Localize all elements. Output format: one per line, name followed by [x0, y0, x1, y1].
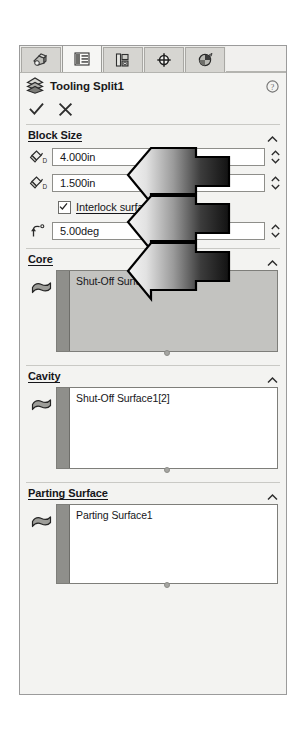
cavity-selection-item[interactable]: Shut-Off Surface1[2] — [70, 388, 277, 468]
field-row-draft-angle: 5.00deg — [20, 218, 286, 244]
tab-display-manager[interactable] — [185, 47, 225, 72]
section-core: Core Shut-Off Surface1[1] — [20, 248, 286, 352]
svg-text:D: D — [43, 183, 48, 190]
chevron-up-icon[interactable] — [267, 130, 278, 139]
field-row-block-depth-core: D 4.000in — [20, 144, 286, 170]
selection-row-core: Shut-Off Surface1[1] — [20, 268, 286, 352]
depth-direction-1-icon: D — [26, 148, 52, 167]
interlock-surface-checkbox[interactable] — [58, 201, 71, 214]
core-selection-item[interactable]: Shut-Off Surface1[1] — [70, 271, 277, 351]
selection-gutter — [57, 271, 70, 351]
block-depth-cavity-spinner[interactable] — [270, 175, 281, 191]
chevron-up-icon[interactable] — [267, 371, 278, 380]
tab-property-manager[interactable] — [62, 45, 102, 72]
depth-direction-2-icon: D — [26, 174, 52, 193]
tab-dimxpert-manager[interactable] — [144, 47, 184, 72]
draft-angle-input[interactable]: 5.00deg — [52, 222, 265, 240]
interlock-surface-label: Interlock surface — [76, 201, 155, 213]
section-header-block-size[interactable]: Block Size — [20, 125, 286, 144]
parting-surface-selection-box[interactable]: Parting Surface1 — [56, 504, 278, 584]
section-header-parting-surface[interactable]: Parting Surface — [20, 483, 286, 502]
resize-handle[interactable] — [164, 350, 170, 356]
configuration-icon — [114, 52, 132, 68]
section-title-cavity: Cavity — [28, 370, 60, 382]
property-list-icon — [73, 51, 91, 67]
display-sphere-icon — [196, 52, 214, 68]
selection-row-parting-surface: Parting Surface1 — [20, 502, 286, 584]
page-title: Tooling Split1 — [50, 80, 266, 92]
section-title-core: Core — [28, 253, 53, 265]
property-manager-action-row — [20, 98, 286, 121]
manager-tab-strip — [20, 46, 286, 73]
section-cavity: Cavity Shut-Off Surface1[2] — [20, 365, 286, 469]
help-icon[interactable]: ? — [266, 79, 279, 92]
section-title-parting-surface: Parting Surface — [28, 487, 108, 499]
core-selection-box[interactable]: Shut-Off Surface1[1] — [56, 270, 278, 352]
draft-angle-icon — [26, 222, 52, 241]
tab-configuration-manager[interactable] — [103, 47, 143, 72]
resize-handle[interactable] — [164, 582, 170, 588]
property-manager-panel: Tooling Split1 ? Block Size — [19, 45, 287, 695]
selection-gutter — [57, 388, 70, 468]
selection-row-cavity: Shut-Off Surface1[2] — [20, 385, 286, 469]
tab-feature-manager-tree[interactable] — [21, 47, 61, 72]
section-block-size: Block Size D 4.000in — [20, 124, 286, 244]
section-header-core[interactable]: Core — [20, 249, 286, 268]
surface-face-icon — [26, 270, 56, 296]
block-depth-core-input[interactable]: 4.000in — [52, 148, 265, 166]
crosshair-icon — [155, 52, 173, 68]
section-parting-surface: Parting Surface Parting Surface1 — [20, 482, 286, 584]
chevron-up-icon[interactable] — [267, 254, 278, 263]
tab-strip-filler — [226, 46, 286, 72]
checkbox-row-interlock-surface[interactable]: Interlock surface — [20, 196, 286, 218]
section-header-cavity[interactable]: Cavity — [20, 366, 286, 385]
close-icon[interactable] — [58, 102, 73, 117]
property-manager-title-row: Tooling Split1 ? — [20, 73, 286, 98]
chevron-up-icon[interactable] — [267, 488, 278, 497]
cavity-selection-box[interactable]: Shut-Off Surface1[2] — [56, 387, 278, 469]
surface-face-icon — [26, 387, 56, 413]
surface-face-icon — [26, 504, 56, 530]
block-depth-core-spinner[interactable] — [270, 149, 281, 165]
svg-text:?: ? — [271, 82, 275, 92]
block-depth-cavity-input[interactable]: 1.500in — [52, 174, 265, 192]
field-row-block-depth-cavity: D 1.500in — [20, 170, 286, 196]
svg-text:D: D — [43, 157, 48, 164]
feature-tree-icon — [32, 52, 50, 68]
draft-angle-spinner[interactable] — [270, 223, 281, 239]
tooling-split-icon — [26, 77, 44, 94]
section-title-block-size: Block Size — [28, 129, 82, 141]
resize-handle[interactable] — [164, 467, 170, 473]
parting-surface-selection-item[interactable]: Parting Surface1 — [70, 505, 277, 583]
check-icon[interactable] — [29, 102, 44, 117]
selection-gutter — [57, 505, 70, 583]
checkmark-icon — [59, 202, 68, 211]
